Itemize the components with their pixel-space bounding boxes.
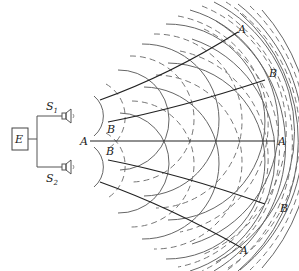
source-box: E (12, 128, 28, 150)
label-b-top-right: B (268, 67, 277, 80)
label-a-center-right: A (277, 135, 286, 148)
interference-diagram: E S1 S2 (0, 0, 299, 271)
antinode-line-lower (100, 182, 242, 248)
speaker-s2-icon (62, 160, 74, 174)
label-b-bottom-left: B (105, 145, 114, 158)
label-a-top: A (237, 23, 246, 36)
wires (28, 116, 62, 167)
label-b-bottom-right: B (279, 202, 288, 215)
speaker-s1-label: S1 (46, 100, 58, 115)
label-b-top-left: B (106, 123, 115, 136)
label-a-center-left: A (79, 135, 88, 148)
speaker-s1-icon (62, 109, 74, 123)
speaker-s2-label: S2 (46, 172, 59, 187)
wavefronts-s1 (94, 2, 299, 270)
label-a-bottom: A (239, 244, 248, 257)
wavefronts-s2 (94, 13, 298, 271)
source-box-label: E (14, 133, 23, 146)
